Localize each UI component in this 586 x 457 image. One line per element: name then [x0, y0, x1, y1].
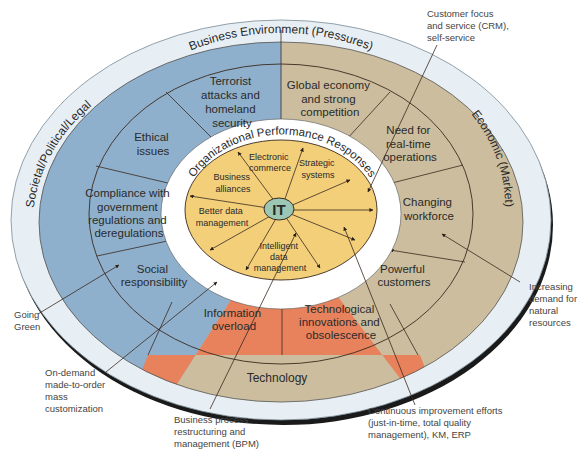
callout-continuous-improvement: Continuous improvement efforts (just-in-…: [368, 405, 505, 440]
callout-crm: Customer focus and service (CRM), self-s…: [427, 8, 511, 43]
callout-on-demand: On-demand made-to-order mass customizati…: [45, 367, 108, 414]
pressure-customers: Powerful customers: [377, 263, 430, 288]
pressure-overload: Information overload: [204, 307, 265, 332]
business-pressures-diagram: IT Business Environment (Pressures) Orga…: [0, 0, 586, 457]
it-label: IT: [272, 201, 285, 218]
callout-going-green: Going Green: [14, 309, 42, 332]
pressure-techinnov: Technological innovations and obsolescen…: [299, 303, 383, 341]
pressure-realtime: Need for real-time operations: [383, 124, 437, 163]
callout-natural-resources: Increasing demand for natural resources: [529, 281, 580, 328]
callout-bpm: Business process restructuring and manag…: [174, 414, 259, 449]
technology-label: Technology: [247, 371, 308, 385]
response-ecommerce: Electronic commerce: [249, 152, 291, 173]
